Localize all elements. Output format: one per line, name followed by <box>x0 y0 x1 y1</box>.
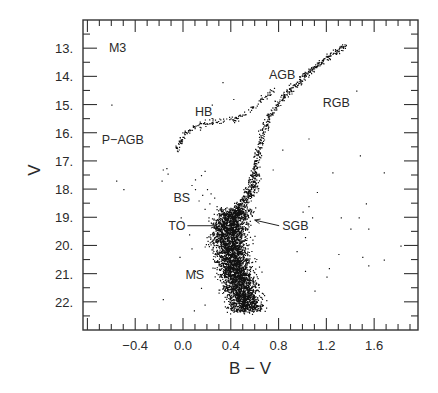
y-tick-label: 20. <box>55 238 73 253</box>
y-tick-label: 18. <box>55 182 73 197</box>
cmd-chart: M3AGBRGBHBP−AGBBSTOSGBMS −0.40.00.40.81.… <box>0 0 438 393</box>
y-tick-label: 21. <box>55 267 73 282</box>
annotation-label: HB <box>195 105 212 119</box>
annotation-label: SGB <box>282 219 308 233</box>
y-tick-label: 16. <box>55 126 73 141</box>
y-tick-label: 22. <box>55 295 73 310</box>
annotation-label: AGB <box>269 68 295 82</box>
y-tick-label: 13. <box>55 41 73 56</box>
x-tick-label: 0.0 <box>174 338 192 353</box>
x-tick-label: −0.4 <box>122 338 148 353</box>
annotation-label: RGB <box>323 96 350 110</box>
y-tick-label: 19. <box>55 210 73 225</box>
y-tick-label: 15. <box>55 98 73 113</box>
tick-labels: −0.40.00.40.81.21.613.14.15.16.17.18.19.… <box>55 41 383 353</box>
annotation-label: MS <box>185 268 204 282</box>
x-tick-label: 0.8 <box>270 338 288 353</box>
annotation-label: M3 <box>109 41 126 55</box>
y-tick-label: 17. <box>55 154 73 169</box>
scatter-points <box>111 44 401 315</box>
annotation-label: P−AGB <box>102 133 144 147</box>
y-tick-label: 14. <box>55 69 73 84</box>
x-axis-title: B − V <box>229 359 272 378</box>
annotation-label: TO <box>168 219 185 233</box>
x-tick-label: 1.6 <box>365 338 383 353</box>
y-axis-title: V <box>25 164 44 176</box>
x-tick-label: 0.4 <box>222 338 240 353</box>
x-tick-label: 1.2 <box>317 338 335 353</box>
annotation-label: BS <box>173 191 190 205</box>
